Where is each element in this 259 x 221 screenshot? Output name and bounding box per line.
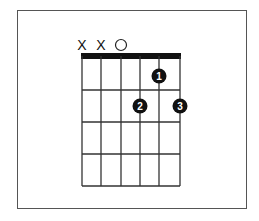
open-marker-string-3	[116, 40, 127, 51]
finger-dot-1: 1	[152, 69, 167, 84]
finger-label-3: 3	[177, 101, 183, 112]
nut	[81, 53, 181, 59]
finger-label-1: 1	[156, 71, 162, 82]
frets	[82, 90, 180, 186]
finger-dot-2: 2	[133, 99, 148, 114]
finger-dot-3: 3	[173, 99, 188, 114]
mute-marker-string-1: X	[77, 37, 87, 53]
mute-marker-string-2: X	[96, 37, 106, 53]
finger-label-2: 2	[137, 101, 143, 112]
chord-diagram: X X 1 2 3	[0, 0, 259, 221]
